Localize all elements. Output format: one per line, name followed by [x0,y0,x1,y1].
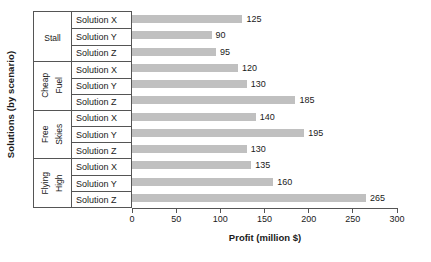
scenario-group-label: FreeSkies [34,111,71,159]
bar-row: 95 [132,44,397,60]
bar-value-label: 120 [242,63,257,73]
bar-row: 90 [132,27,397,43]
x-axis-tick [264,209,265,213]
bar-row: 160 [132,174,397,190]
solution-label: Solution Y [72,126,132,142]
scenario-group-label-line: Cheap [41,73,50,98]
scenario-group: FreeSkiesSolution XSolution YSolution Z [34,110,132,159]
x-axis-tick [308,209,309,213]
solution-label: Solution Y [72,175,132,191]
bar [132,48,216,56]
x-axis-tick-label: 300 [389,214,404,224]
x-axis-line [132,208,398,209]
scenario-group-label-line: Skies [55,124,64,145]
y-axis-title: Solutions (by scenario) [0,0,22,208]
scenario-group-label-line: Fuel [55,77,64,94]
bar [132,96,295,104]
solution-label: Solution Z [72,94,132,110]
solution-label: Solution Z [72,191,132,207]
x-axis-tick [132,209,133,213]
bar-value-label: 195 [308,128,323,138]
x-axis-tick [176,209,177,213]
scenario-group: CheapFuelSolution XSolution YSolution Z [34,61,132,110]
scenario-group: StallSolution XSolution YSolution Z [34,12,132,61]
solution-label: Solution Z [72,45,132,61]
bar [132,113,256,121]
bar-row: 140 [132,109,397,125]
solution-label-column: Solution XSolution YSolution Z [71,111,132,159]
bar-row: 125 [132,11,397,27]
bar [132,64,238,72]
x-axis-tick [397,209,398,213]
x-axis-tick-label: 100 [213,214,228,224]
scenario-group-label-line: Free [41,126,50,143]
bar-value-label: 90 [216,30,226,40]
scenario-group-label-line: Flying [41,172,50,195]
bar [132,161,251,169]
bar [132,194,366,202]
bar-value-label: 130 [251,79,266,89]
bar-value-label: 130 [251,144,266,154]
x-axis-title: Profit (million $) [132,232,398,243]
plot-area: 1259095120130185140195130135160265 [132,11,397,208]
bar-value-label: 95 [220,47,230,57]
solution-label: Solution Y [72,28,132,44]
scenario-group-label: FlyingHigh [34,159,71,207]
bar-value-label: 185 [299,95,314,105]
bar-chart: Solutions (by scenario) StallSolution XS… [0,0,431,262]
bar [132,15,242,23]
bar-value-label: 265 [370,193,385,203]
bar-row: 195 [132,125,397,141]
bar-row: 135 [132,157,397,173]
scenario-group-label-line: Stall [44,33,61,43]
solution-label: Solution Y [72,78,132,94]
bar [132,80,247,88]
x-axis-tick-label: 150 [257,214,272,224]
bar-value-label: 125 [246,14,261,24]
category-table: StallSolution XSolution YSolution ZCheap… [33,11,132,208]
bar-row: 130 [132,76,397,92]
bar-row: 185 [132,92,397,108]
solution-label-column: Solution XSolution YSolution Z [71,62,132,110]
x-axis-tick [352,209,353,213]
solution-label: Solution X [72,62,132,78]
x-axis-tick [220,209,221,213]
x-axis-tick-label: 50 [171,214,181,224]
bar-value-label: 140 [260,112,275,122]
solution-label: Solution X [72,111,132,127]
scenario-group: FlyingHighSolution XSolution YSolution Z [34,158,132,207]
bar-value-label: 160 [277,177,292,187]
bar-row: 120 [132,60,397,76]
bar [132,31,212,39]
x-axis-tick-label: 200 [301,214,316,224]
solution-label: Solution X [72,159,132,175]
scenario-group-label: Stall [34,12,71,61]
bar-value-label: 135 [255,160,270,170]
solution-label: Solution X [72,12,132,28]
bar [132,145,247,153]
bar-row: 265 [132,190,397,206]
solution-label-column: Solution XSolution YSolution Z [71,159,132,207]
scenario-group-label: CheapFuel [34,62,71,110]
x-axis-tick-label: 250 [345,214,360,224]
solution-label-column: Solution XSolution YSolution Z [71,12,132,61]
bar [132,129,304,137]
x-axis-tick-label: 0 [129,214,134,224]
bar [132,178,273,186]
y-axis-title-text: Solutions (by scenario) [6,50,17,157]
scenario-group-label-line: High [55,174,64,191]
bar-row: 130 [132,141,397,157]
solution-label: Solution Z [72,142,132,158]
